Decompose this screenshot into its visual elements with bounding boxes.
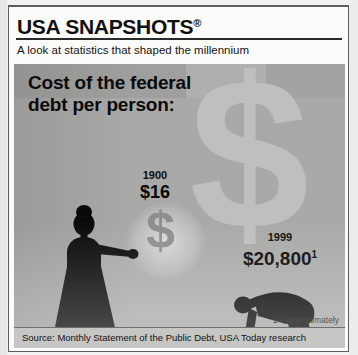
amount-label-1999: $20,8001 [221,244,339,269]
panel-headline: Cost of the federal debt per person: [28,72,191,116]
subtitle: A look at statistics that shaped the mil… [17,42,339,58]
panel-headline-line-2: debt per person: [28,94,191,116]
graphic-panel: $ Cost of the federal debt per person: 1… [14,64,345,348]
infographic-card: USA SNAPSHOTS® A look at statistics that… [8,5,349,352]
year-label-1999: 1999 [221,231,339,244]
source-bar: Source: Monthly Statement of the Public … [14,327,345,348]
amount-value-1999: $20,800 [243,248,312,269]
scanned-page: USA SNAPSHOTS® A look at statistics that… [0,0,358,355]
footnote-marker-1999: 1 [312,249,318,260]
figure-woman-standing [34,204,164,340]
year-label-1900: 1900 [120,169,190,182]
amount-label-1900: $16 [120,182,190,202]
source-text: Source: Monthly Statement of the Public … [22,332,306,343]
masthead-divider [16,38,342,40]
panel-headline-line-1: Cost of the federal [28,72,191,94]
masthead: USA SNAPSHOTS® [9,7,348,38]
masthead-title-text: USA SNAPSHOTS [17,15,193,38]
scan-right-margin [349,0,358,355]
masthead-title: USA SNAPSHOTS® [17,11,348,39]
scan-left-margin [0,0,7,355]
footnote: 1—approximately [273,315,339,325]
data-label-1999: 1999 $20,8001 [221,231,339,269]
data-label-1900: 1900 $16 [120,169,190,202]
registered-trademark-icon: ® [193,17,201,29]
